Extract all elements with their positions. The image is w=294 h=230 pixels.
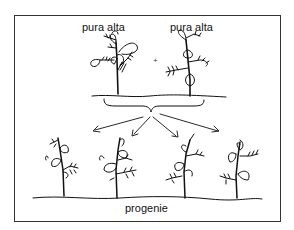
arrow-1-icon: [93, 117, 143, 132]
parent-plant-right-icon: [166, 30, 209, 96]
arrow-3-icon: [153, 117, 178, 137]
arrows: [93, 114, 219, 137]
offspring-plant-3-icon: [166, 134, 204, 198]
offspring-ground-line: [33, 197, 262, 200]
offspring-plant-2-icon: [99, 138, 136, 198]
brace-icon: [104, 99, 204, 112]
cross-symbol: +: [153, 56, 158, 65]
parent-plant-left-icon: [91, 31, 138, 94]
arrow-4-icon: [160, 114, 219, 132]
offspring-plant-1-icon: [45, 138, 78, 196]
diagram-artwork: +: [0, 0, 294, 230]
parent-ground-line: [92, 95, 226, 97]
offspring-plant-4-icon: [220, 140, 258, 198]
arrow-2-icon: [132, 117, 150, 136]
